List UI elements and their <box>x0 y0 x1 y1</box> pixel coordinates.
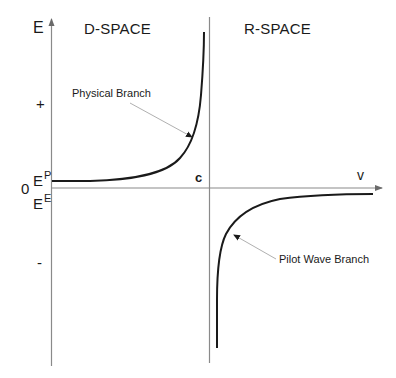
c-label: c <box>195 171 202 184</box>
plus-label: + <box>36 96 45 111</box>
pilot-wave-branch-label: Pilot Wave Branch <box>279 254 369 265</box>
physical-branch-label: Physical Branch <box>72 88 151 99</box>
minus-label: - <box>37 255 42 270</box>
diagram-canvas <box>0 0 396 378</box>
ep-label: EP <box>33 170 51 188</box>
pilot-wave-branch-pointer <box>234 235 276 259</box>
v-axis-label: v <box>357 168 364 182</box>
d-space-label: D-SPACE <box>84 21 151 36</box>
ee-label: EE <box>33 193 51 211</box>
pilot-wave-branch-curve <box>217 194 373 348</box>
e-axis-label: E <box>33 20 44 36</box>
origin-label: 0 <box>21 181 29 196</box>
physical-branch-pointer <box>130 103 192 137</box>
physical-branch-curve <box>52 32 204 181</box>
r-space-label: R-SPACE <box>244 21 311 36</box>
